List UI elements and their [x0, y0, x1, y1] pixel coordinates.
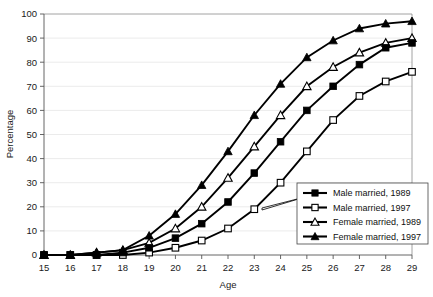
- marker-open-square: [330, 117, 337, 124]
- marker-filled-square: [382, 44, 389, 51]
- marker-filled-square: [198, 220, 205, 227]
- y-tick-label: 10: [26, 225, 37, 236]
- chart-container: 0102030405060708090100 15161718192021222…: [0, 0, 433, 297]
- marker-filled-square: [356, 61, 363, 68]
- marker-open-triangle: [329, 63, 337, 71]
- marker-filled-square: [251, 170, 258, 177]
- x-tick-label: 17: [91, 262, 102, 273]
- x-tick-label: 20: [170, 262, 181, 273]
- x-tick-label: 25: [302, 262, 313, 273]
- marker-open-square: [304, 148, 311, 155]
- marker-open-square: [356, 93, 363, 100]
- legend-item-label: Female married, 1989: [333, 217, 421, 227]
- chart-legend: Male married, 1989Male married, 1997Fema…: [297, 183, 428, 244]
- x-tick-label: 22: [223, 262, 234, 273]
- marker-filled-square: [304, 107, 311, 114]
- marker-filled-triangle: [303, 53, 311, 61]
- marker-filled-square: [409, 40, 416, 47]
- x-tick-label: 19: [144, 262, 155, 273]
- marker-filled-square: [330, 83, 337, 90]
- y-axis-title: Percentage: [4, 110, 15, 159]
- marker-open-square: [382, 78, 389, 85]
- x-tick-label: 15: [39, 262, 50, 273]
- line-chart: 0102030405060708090100 15161718192021222…: [0, 0, 433, 297]
- y-tick-label: 40: [26, 153, 37, 164]
- y-tick-label: 30: [26, 177, 37, 188]
- x-tick-label: 29: [407, 262, 418, 273]
- x-tick-label: 27: [354, 262, 365, 273]
- x-tick-label: 24: [275, 262, 286, 273]
- y-tick-label: 90: [26, 33, 37, 44]
- marker-filled-square: [172, 235, 179, 242]
- marker-open-square: [312, 204, 318, 210]
- legend-item-label: Male married, 1989: [333, 188, 411, 198]
- y-tick-label: 100: [21, 8, 37, 19]
- y-tick-label: 20: [26, 201, 37, 212]
- legend-item-label: Female married, 1997: [333, 232, 421, 242]
- x-tick-label: 18: [118, 262, 129, 273]
- y-tick-label: 50: [26, 129, 37, 140]
- marker-open-square: [277, 179, 284, 186]
- marker-filled-square: [146, 244, 153, 251]
- x-tick-label: 26: [328, 262, 339, 273]
- marker-open-square: [251, 206, 258, 213]
- marker-open-square: [172, 244, 179, 251]
- marker-open-square: [198, 237, 205, 244]
- x-axis-title: Age: [220, 279, 237, 290]
- marker-open-square: [409, 69, 416, 76]
- marker-open-square: [225, 225, 232, 232]
- legend-item-label: Male married, 1997: [333, 203, 411, 213]
- y-tick-label: 80: [26, 57, 37, 68]
- y-tick-label: 70: [26, 81, 37, 92]
- x-tick-label: 21: [196, 262, 207, 273]
- x-tick-label: 16: [65, 262, 76, 273]
- y-tick-label: 60: [26, 105, 37, 116]
- x-tick-label: 28: [380, 262, 391, 273]
- marker-filled-square: [277, 138, 284, 145]
- y-tick-label: 0: [32, 249, 37, 260]
- y-axis-ticks: 0102030405060708090100: [21, 8, 44, 260]
- marker-filled-square: [312, 190, 318, 196]
- marker-filled-square: [225, 199, 232, 206]
- x-tick-label: 23: [249, 262, 260, 273]
